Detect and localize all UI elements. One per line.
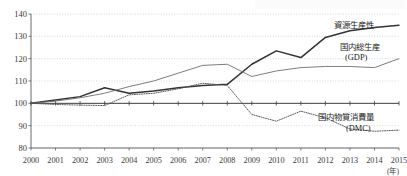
x-tick-label: 2015 <box>391 156 407 165</box>
series-label-dmc: 国内物質消費量 <box>318 112 374 122</box>
series-label-resource-productivity: 資源生産性 <box>334 20 374 30</box>
y-tick-label: 130 <box>14 31 27 41</box>
x-tick-label: 2013 <box>342 156 358 165</box>
x-tick-label: 2001 <box>47 156 63 165</box>
series-label-gdp: 国内総生産 <box>340 42 380 52</box>
line-chart: 1401301201101009080 20002001200220032004… <box>0 0 407 176</box>
chart-container: 1401301201101009080 20002001200220032004… <box>0 0 407 176</box>
y-tick-label: 100 <box>14 98 27 108</box>
y-tick-label: 90 <box>19 121 28 131</box>
x-tick-label: 2010 <box>268 156 284 165</box>
y-tick-label: 80 <box>19 143 28 153</box>
x-tick-label: 2005 <box>145 156 161 165</box>
x-tick-label: 2004 <box>121 156 137 165</box>
x-axis-unit-label: (年) <box>387 166 399 176</box>
y-tick-label: 120 <box>14 54 27 64</box>
x-tick-label: 2014 <box>366 156 382 165</box>
x-tick-label: 2006 <box>170 156 186 165</box>
x-tick-label: 2011 <box>293 156 309 165</box>
x-tick-label: 2000 <box>23 156 39 165</box>
x-tick-label: 2009 <box>244 156 260 165</box>
series-label-dmc-sub: (DMC) <box>346 124 371 133</box>
x-tick-label: 2008 <box>219 156 235 165</box>
x-tick-label: 2007 <box>195 156 211 165</box>
x-tick-label: 2002 <box>72 156 88 165</box>
header-note-strip <box>255 0 405 9</box>
x-tick-label: 2012 <box>317 156 333 165</box>
y-tick-label: 110 <box>15 76 27 86</box>
series-label-gdp-sub: (GDP) <box>345 53 368 62</box>
x-tick-label: 2003 <box>96 156 112 165</box>
y-tick-label: 140 <box>14 9 27 19</box>
